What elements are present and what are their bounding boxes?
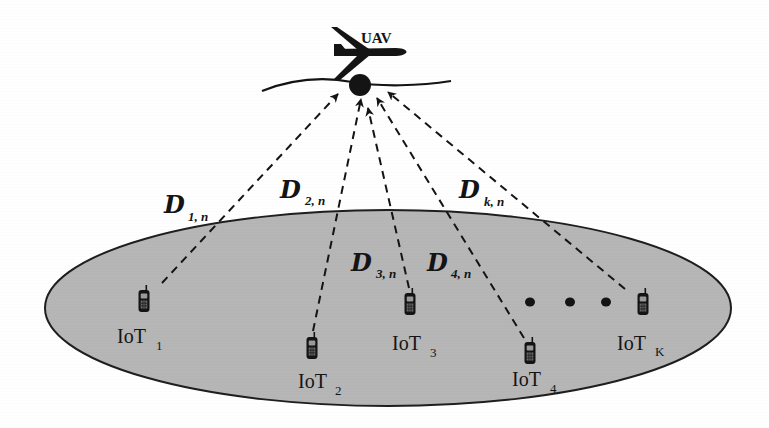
uav-label: UAV (361, 30, 392, 46)
diagram-canvas: UAV D 1, n D 2, n D 3, n (0, 0, 769, 428)
svg-text:3, n: 3, n (375, 266, 396, 281)
uav-position-marker (349, 74, 371, 96)
svg-text:4, n: 4, n (450, 266, 471, 281)
svg-text:D: D (350, 248, 372, 277)
svg-text:IoT: IoT (117, 325, 146, 347)
link-label-2: D 2, n (279, 175, 325, 208)
svg-text:2: 2 (335, 383, 342, 398)
svg-text:IoT: IoT (392, 332, 421, 354)
link-label-k: D k, n (458, 175, 504, 209)
svg-text:1: 1 (156, 338, 163, 353)
svg-text:4: 4 (550, 381, 557, 396)
svg-text:D: D (279, 175, 301, 204)
svg-text:1, n: 1, n (188, 209, 208, 224)
svg-text:IoT: IoT (298, 370, 327, 392)
svg-text:3: 3 (430, 345, 437, 360)
svg-text:D: D (458, 175, 480, 204)
svg-text:D: D (426, 248, 448, 277)
link-label-1: D 1, n (163, 190, 208, 224)
svg-text:K: K (655, 344, 665, 359)
svg-text:IoT: IoT (512, 368, 541, 390)
svg-text:IoT: IoT (617, 332, 646, 354)
svg-text:2, n: 2, n (304, 193, 325, 208)
svg-text:D: D (163, 190, 185, 219)
svg-text:k, n: k, n (484, 194, 504, 209)
